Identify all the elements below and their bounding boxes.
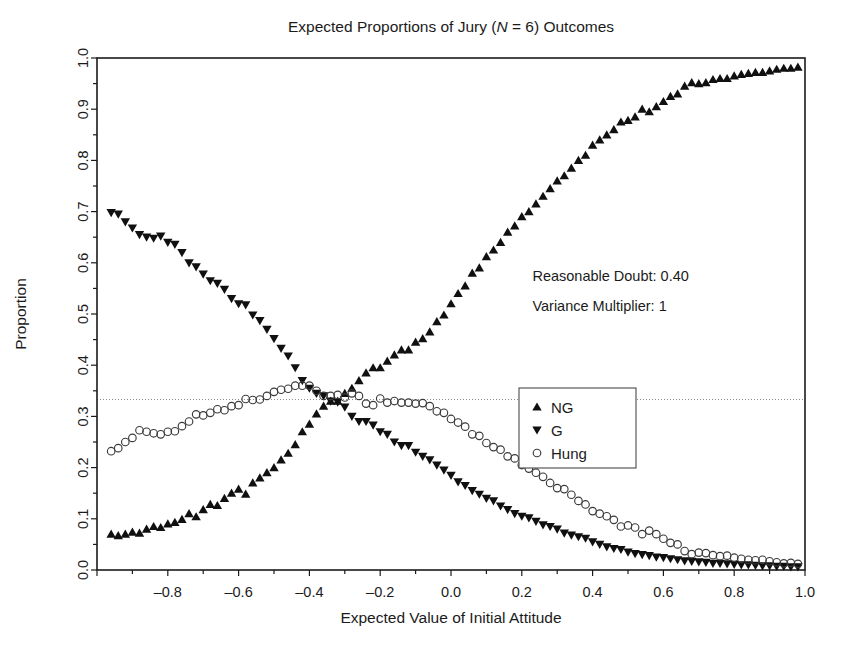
x-tick-label: –0.4 (295, 584, 323, 600)
data-point-g (425, 456, 434, 464)
jury-outcomes-scatter-chart: Expected Proportions of Jury (N = 6) Out… (0, 0, 844, 650)
data-point-hung (596, 510, 604, 518)
data-point-hung (284, 385, 292, 393)
data-point-g (177, 249, 186, 257)
data-point-ng (106, 530, 115, 538)
data-point-ng (538, 192, 547, 200)
data-point-ng (460, 281, 469, 289)
data-point-ng (765, 66, 774, 74)
data-point-hung (384, 399, 392, 407)
data-point-hung (433, 408, 441, 416)
figure-container: Expected Proportions of Jury (N = 6) Out… (0, 0, 844, 650)
data-point-hung (143, 428, 151, 436)
data-point-g (227, 295, 236, 303)
data-point-hung (603, 512, 611, 520)
data-point-ng (609, 125, 618, 133)
y-tick-label: 0.3 (75, 406, 91, 426)
data-point-hung (178, 422, 186, 430)
data-point-ng (283, 449, 292, 457)
data-point-g (489, 497, 498, 505)
series-g (106, 209, 802, 571)
data-point-hung (476, 432, 484, 440)
x-tick-label: 0.0 (441, 584, 461, 600)
data-point-ng (269, 463, 278, 471)
data-point-hung (461, 423, 469, 431)
data-point-ng (439, 310, 448, 318)
data-point-hung (405, 399, 413, 407)
data-point-hung (214, 405, 222, 413)
data-point-hung (440, 409, 448, 417)
data-point-hung (114, 444, 122, 452)
data-point-hung (617, 523, 625, 531)
data-point-ng (595, 135, 604, 143)
data-point-hung (497, 446, 505, 454)
data-point-hung (221, 406, 229, 414)
data-point-hung (447, 415, 455, 423)
data-point-hung (369, 401, 377, 409)
data-point-hung (242, 395, 250, 403)
data-point-ng (291, 440, 300, 448)
data-point-hung (171, 427, 179, 435)
data-point-hung (511, 455, 519, 463)
x-tick-label: 0.2 (512, 584, 532, 600)
y-tick-label: 0.9 (75, 99, 91, 119)
data-point-ng (213, 501, 222, 509)
data-point-g (560, 530, 569, 538)
data-point-hung (504, 453, 512, 461)
data-point-hung (674, 541, 682, 549)
data-point-g (574, 533, 583, 541)
data-point-ng (184, 509, 193, 517)
data-point-g (255, 317, 264, 325)
data-point-g (114, 211, 123, 219)
data-point-ng (241, 490, 250, 498)
data-point-g (262, 326, 271, 334)
data-point-hung (624, 522, 632, 530)
x-axis-ticks: –0.8–0.6–0.4–0.20.00.20.40.60.81.0 (97, 570, 815, 600)
data-point-g (276, 345, 285, 353)
data-point-hung (483, 439, 491, 447)
data-point-ng (135, 529, 144, 537)
data-point-g (432, 461, 441, 469)
data-point-ng (510, 221, 519, 229)
data-point-hung (355, 392, 363, 400)
x-tick-label: 0.8 (724, 584, 744, 600)
data-point-hung (157, 431, 165, 439)
data-point-ng (390, 350, 399, 358)
data-point-ng (312, 409, 321, 417)
data-point-ng (574, 156, 583, 164)
data-point-hung (723, 552, 731, 560)
data-point-ng (114, 531, 123, 539)
data-point-g (340, 404, 349, 412)
data-point-hung (532, 469, 540, 477)
data-point-ng (581, 151, 590, 159)
data-point-ng (425, 327, 434, 335)
data-point-ng (149, 522, 158, 530)
data-point-hung (426, 402, 434, 410)
data-point-hung (376, 395, 384, 403)
data-point-hung (667, 539, 675, 547)
data-point-g (269, 335, 278, 343)
data-point-hung (270, 388, 278, 396)
y-tick-label: 1.0 (75, 48, 91, 68)
data-point-ng (262, 468, 271, 476)
annotation-reasonable-doubt: Reasonable Doubt: 0.40 (532, 268, 688, 284)
data-point-ng (453, 289, 462, 297)
y-tick-label: 0.7 (75, 202, 91, 222)
data-point-hung (263, 392, 271, 400)
x-tick-label: –0.2 (366, 584, 394, 600)
data-point-hung (695, 549, 703, 557)
data-point-ng (630, 112, 639, 120)
legend-label-g: G (551, 422, 563, 439)
data-point-ng (496, 238, 505, 246)
data-point-ng (446, 299, 455, 307)
x-tick-label: –0.6 (224, 584, 252, 600)
data-point-g (163, 239, 172, 247)
data-point-g (184, 259, 193, 267)
y-axis-title: Proportion (12, 278, 29, 350)
data-point-ng (560, 171, 569, 179)
data-point-hung (164, 428, 172, 436)
data-point-ng (255, 473, 264, 481)
data-point-hung (553, 484, 561, 492)
x-tick-label: 0.6 (653, 584, 673, 600)
data-point-hung (631, 524, 639, 532)
